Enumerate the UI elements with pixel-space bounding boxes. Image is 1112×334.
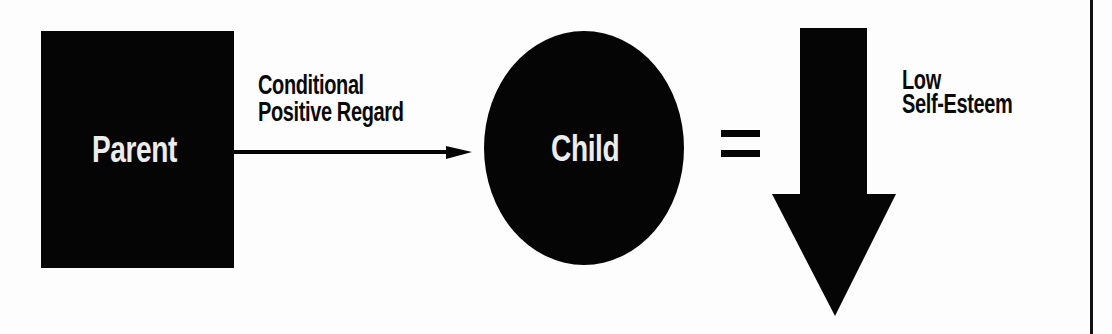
edge-arrow-icon <box>234 146 472 159</box>
edge-label-line-1: Conditional <box>258 73 364 97</box>
outcome-label-line-2: Self-Esteem <box>902 92 1012 116</box>
equals-icon <box>721 130 760 157</box>
edge-label-line-2: Positive Regard <box>258 100 403 124</box>
diagram-canvas: Parent Child Conditional Positive Regard… <box>0 0 1112 334</box>
child-node-label: Child <box>551 131 619 167</box>
down-arrow-icon <box>772 28 896 316</box>
frame-right-border <box>1090 0 1093 334</box>
parent-node-label: Parent <box>92 132 177 168</box>
